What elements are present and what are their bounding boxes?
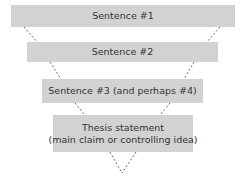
level-2-label: Sentence #2 — [92, 46, 154, 58]
thesis-sublabel: (main claim or controlling idea) — [48, 134, 197, 146]
thesis-label: Thesis statement — [82, 122, 164, 134]
thesis-box: Thesis statement (main claim or controll… — [53, 115, 193, 152]
level-2-box: Sentence #2 — [27, 42, 218, 62]
level-1-box: Sentence #1 — [11, 5, 235, 27]
level-1-label: Sentence #1 — [92, 10, 154, 22]
level-3-box: Sentence #3 (and perhaps #4) — [42, 79, 203, 103]
level-3-label: Sentence #3 (and perhaps #4) — [48, 85, 196, 97]
